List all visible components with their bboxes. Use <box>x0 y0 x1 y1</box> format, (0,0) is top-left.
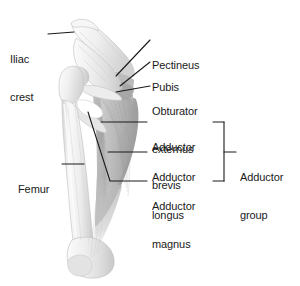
anatomy-figure: Iliac crest Femur Pectineus Pubis Obtura… <box>0 0 300 286</box>
label-iliac-crest: Iliac crest <box>10 28 33 128</box>
label-adductor-group-line1: Adductor <box>240 171 283 184</box>
label-femur: Femur <box>18 158 49 221</box>
label-iliac-crest-line1: Iliac <box>10 53 33 66</box>
label-adductor-magnus-line1: Adductor <box>152 200 195 213</box>
label-iliac-crest-line2: crest <box>10 91 33 104</box>
label-adductor-group: Adductor group <box>240 146 283 246</box>
label-adductor-magnus: Adductor magnus <box>152 175 195 275</box>
leader-iliac-crest <box>48 32 74 34</box>
medial-condyle <box>68 255 92 276</box>
label-femur-line1: Femur <box>18 183 49 196</box>
label-adductor-group-line2: group <box>240 209 283 222</box>
adductor-group-bracket <box>213 122 236 181</box>
label-adductor-magnus-line2: magnus <box>152 238 195 251</box>
